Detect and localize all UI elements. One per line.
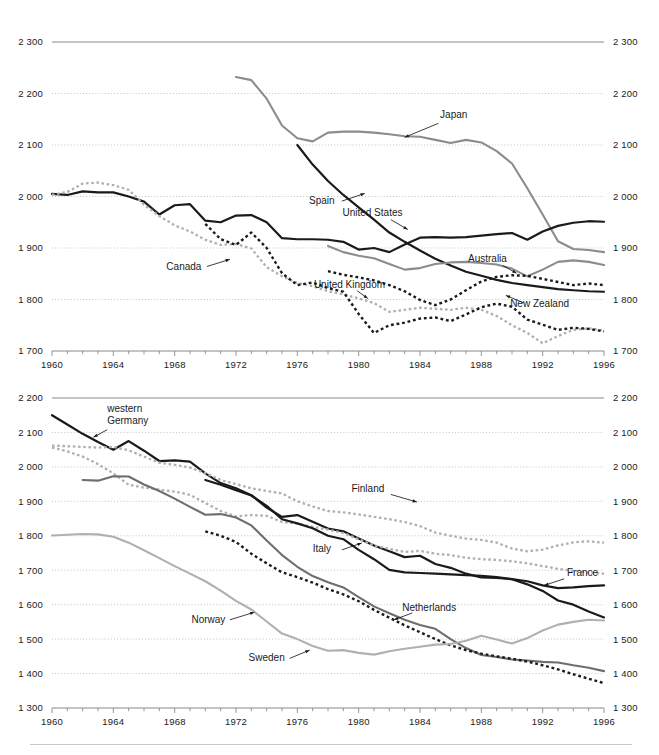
y-axis-tick-label: 1 700 xyxy=(613,565,638,576)
y-axis-tick-label: 2 000 xyxy=(18,461,43,472)
y-axis-tick-label: 1 700 xyxy=(18,565,43,576)
y-axis-tick-label: 1 800 xyxy=(18,294,43,305)
x-axis-tick-label: 1964 xyxy=(102,359,124,370)
leader-line xyxy=(405,123,439,137)
y-axis-tick-label: 1 300 xyxy=(18,702,43,713)
x-axis-tick-label: 1996 xyxy=(593,716,615,727)
y-axis-tick-label: 1 600 xyxy=(613,599,638,610)
series-label: Spain xyxy=(309,195,335,206)
y-axis-tick-label: 2 200 xyxy=(613,392,638,403)
series-annotation-finland: Finland xyxy=(351,483,416,503)
y-axis-tick-label: 1 300 xyxy=(613,702,638,713)
series-label: Netherlands xyxy=(402,602,456,613)
arrow-head xyxy=(93,434,98,437)
arrow-head xyxy=(360,193,365,196)
y-axis-tick-label: 2 000 xyxy=(613,461,638,472)
y-axis-tick-label: 2 000 xyxy=(613,191,638,202)
series-label: New Zealand xyxy=(510,298,569,309)
y-axis-tick-label: 1 500 xyxy=(18,634,43,645)
y-axis-tick-label: 2 200 xyxy=(18,88,43,99)
y-axis-tick-label: 1 400 xyxy=(18,668,43,679)
top-chart-block: 1 7001 7001 8001 8001 9001 9002 0002 000… xyxy=(0,0,659,380)
chart-page: 1 7001 7001 8001 8001 9001 9002 0002 000… xyxy=(0,0,659,755)
x-axis-tick-label: 1988 xyxy=(470,716,492,727)
x-axis-tick-label: 1976 xyxy=(286,359,308,370)
x-axis-tick-label: 1992 xyxy=(532,716,554,727)
x-axis-tick-label: 1960 xyxy=(41,716,63,727)
y-axis-tick-label: 2 100 xyxy=(18,139,43,150)
series-annotation-france: France xyxy=(544,567,598,585)
top-chart: 1 7001 7001 8001 8001 9001 9002 0002 000… xyxy=(0,0,659,380)
x-axis-tick-label: 1988 xyxy=(470,359,492,370)
series-annotation-italy: Italy xyxy=(313,543,362,554)
arrow-head xyxy=(403,226,408,230)
y-axis-tick-label: 1 700 xyxy=(613,345,638,356)
series-annotation-canada: Canada xyxy=(166,259,230,272)
x-axis-tick-label: 1980 xyxy=(348,359,370,370)
series-label: United Kingdom xyxy=(314,279,385,290)
y-axis-tick-label: 1 900 xyxy=(18,242,43,253)
arrow-head xyxy=(412,499,417,502)
series-annotation-netherlands: Netherlands xyxy=(394,602,456,620)
y-axis-tick-label: 1 900 xyxy=(613,496,638,507)
x-axis-tick-label: 1972 xyxy=(225,359,247,370)
series-label: western xyxy=(106,403,142,414)
x-axis-tick-label: 1984 xyxy=(409,716,431,727)
series-label: Sweden xyxy=(249,652,285,663)
series-line-france xyxy=(205,480,604,588)
series-label: Italy xyxy=(313,543,331,554)
y-axis-tick-label: 1 600 xyxy=(18,599,43,610)
y-axis-tick-label: 1 700 xyxy=(18,345,43,356)
arrow-head xyxy=(544,582,549,585)
y-axis-tick-label: 1 800 xyxy=(613,294,638,305)
series-line-japan xyxy=(236,77,604,252)
series-annotation-united-states: United States xyxy=(342,207,407,229)
series-annotation-norway: Norway xyxy=(191,612,254,625)
footer-rule xyxy=(30,744,632,745)
arrow-head xyxy=(357,543,362,546)
x-axis-tick-label: 1976 xyxy=(286,716,308,727)
x-axis-tick-label: 1960 xyxy=(41,359,63,370)
y-axis-tick-label: 2 300 xyxy=(613,36,638,47)
x-axis-tick-label: 1972 xyxy=(225,716,247,727)
x-axis-tick-label: 1996 xyxy=(593,359,615,370)
series-label: Norway xyxy=(191,614,225,625)
series-label: Finland xyxy=(351,483,384,494)
x-axis-tick-label: 1968 xyxy=(164,716,186,727)
series-annotation-new-zealand: New Zealand xyxy=(506,295,569,308)
x-axis-tick-label: 1984 xyxy=(409,359,431,370)
y-axis-tick-label: 1 800 xyxy=(613,530,638,541)
series-line-canada xyxy=(52,183,604,344)
series-label: Canada xyxy=(166,261,201,272)
arrow-head xyxy=(225,259,230,262)
y-axis-tick-label: 1 900 xyxy=(18,496,43,507)
y-axis-tick-label: 2 000 xyxy=(18,191,43,202)
series-label: France xyxy=(567,567,599,578)
arrow-head xyxy=(305,650,310,653)
series-annotation-japan: Japan xyxy=(405,109,468,137)
series-annotation-sweden: Sweden xyxy=(249,650,310,663)
y-axis-tick-label: 2 200 xyxy=(18,392,43,403)
y-axis-tick-label: 2 100 xyxy=(613,139,638,150)
x-axis-tick-label: 1992 xyxy=(532,359,554,370)
series-label: Australia xyxy=(468,253,507,264)
series-line-norway xyxy=(83,476,604,671)
y-axis-tick-label: 1 900 xyxy=(613,242,638,253)
bottom-chart: 1 3001 3001 4001 4001 5001 5001 6001 600… xyxy=(0,380,659,745)
series-label: United States xyxy=(342,207,402,218)
series-line-spain xyxy=(297,145,604,292)
x-axis-tick-label: 1964 xyxy=(102,716,124,727)
x-axis-tick-label: 1980 xyxy=(348,716,370,727)
y-axis-tick-label: 1 400 xyxy=(613,668,638,679)
y-axis-tick-label: 2 100 xyxy=(18,427,43,438)
y-axis-tick-label: 1 500 xyxy=(613,634,638,645)
y-axis-tick-label: 2 200 xyxy=(613,88,638,99)
y-axis-tick-label: 2 100 xyxy=(613,427,638,438)
x-axis-tick-label: 1968 xyxy=(164,359,186,370)
series-annotation-united-kingdom: United Kingdom xyxy=(314,279,385,299)
series-line-united-kingdom xyxy=(205,224,604,333)
y-axis-tick-label: 2 300 xyxy=(18,36,43,47)
arrow-head xyxy=(363,295,367,299)
series-line-western-germany xyxy=(52,415,604,617)
series-label: Japan xyxy=(440,109,467,120)
